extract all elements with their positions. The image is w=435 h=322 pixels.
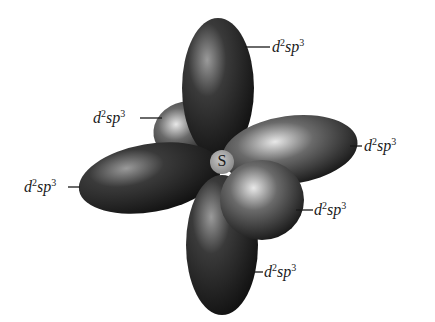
label-upper-left: d2sp3 — [93, 109, 125, 126]
label-lower-right: d2sp3 — [314, 201, 346, 218]
lobe-lower-right — [220, 160, 304, 240]
center-atom-label: S — [212, 152, 232, 170]
label-top: d2sp3 — [272, 38, 304, 55]
label-right: d2sp3 — [364, 137, 396, 154]
label-left: d2sp3 — [24, 178, 56, 195]
label-bottom: d2sp3 — [264, 263, 296, 280]
